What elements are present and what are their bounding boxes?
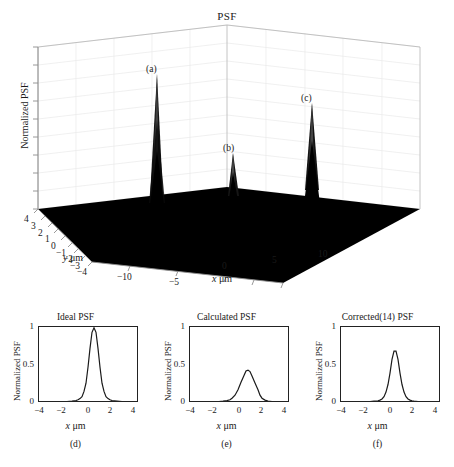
x-tick-label: 0 [222,261,227,271]
subplot-x-label-unit: μm [372,420,388,431]
subplot-x-tick: 0 [79,405,97,415]
psf-peak-c [303,103,321,212]
subplot-ideal-psf: Ideal PSF Normalized PSF 1 0.5 0 −4 −2 0… [0,312,151,467]
x-axis-label-unit: μm [216,273,232,284]
x-tick-label: −10 [117,272,132,282]
ideal-psf-curve [39,327,138,402]
z-axis [33,47,38,209]
y-tick-label: −4 [77,267,87,277]
subplot-y-tick: 1 [312,321,336,331]
subplot-x-tick: 4 [124,405,142,415]
psf-3d-y-axis-label: y μm [63,252,83,263]
subplot-x-tick: −2 [354,405,372,415]
psf-profile-subplots: Ideal PSF Normalized PSF 1 0.5 0 −4 −2 0… [0,312,454,467]
subplot-x-tick: 0 [230,405,248,415]
peak-label-b: (b) [223,143,234,153]
subplot-caption: (d) [0,439,151,449]
psf-3d-figure: PSF Normalized PSF [0,0,454,310]
subplot-plot-area [38,326,138,402]
subplot-y-tick: 0.5 [161,359,185,369]
y-tick-label: 4 [24,214,29,224]
subplot-x-tick: 0 [381,405,399,415]
calculated-psf-curve [190,327,289,402]
peak-label-c: (c) [301,93,312,103]
psf-peak-b [226,153,241,218]
corrected-psf-curve [341,327,440,402]
subplot-x-tick: −2 [203,405,221,415]
x-tick-label: −5 [169,277,179,287]
subplot-x-label-unit: μm [221,420,237,431]
subplot-x-tick: −2 [52,405,70,415]
subplot-x-axis-label: x μm [302,420,453,431]
x-tick-label: 10 [318,249,328,259]
y-axis-label-unit: μm [67,252,83,263]
subplot-x-tick: 2 [252,405,270,415]
subplot-x-tick: −4 [30,405,48,415]
subplot-caption: (e) [151,439,302,449]
subplot-x-tick: 2 [403,405,421,415]
subplot-x-label-unit: μm [70,420,86,431]
subplot-x-tick: 2 [101,405,119,415]
subplot-x-axis-label: x μm [151,420,302,431]
y-tick-label: 1 [45,234,50,244]
axis-frame [38,25,420,209]
subplot-calculated-psf: Calculated PSF Normalized PSF 1 0.5 0 −4… [151,312,302,467]
grid-wall-left [38,25,227,209]
subplot-x-tick: 4 [275,405,293,415]
grid-wall-right [227,25,420,209]
subplot-y-tick: 0.5 [10,359,34,369]
psf-3d-x-axis-label: x μm [212,273,232,284]
subplot-y-tick: 1 [10,321,34,331]
subplot-plot-area [340,326,440,402]
subplot-x-tick: 4 [426,405,444,415]
subplot-caption: (f) [302,439,453,449]
subplot-x-tick: −4 [332,405,350,415]
peak-label-a: (a) [146,64,157,74]
psf-peak-a [147,74,167,228]
subplot-x-tick: −4 [181,405,199,415]
subplot-plot-area [189,326,289,402]
subplot-x-axis-label: x μm [0,420,151,431]
y-tick-label: 3 [31,221,36,231]
y-tick-label: 2 [38,228,43,238]
subplot-y-tick: 1 [161,321,185,331]
subplot-corrected-psf: Corrected(14) PSF Normalized PSF 1 0.5 0… [302,312,453,467]
x-tick-label: 5 [272,255,277,265]
subplot-y-tick: 0.5 [312,359,336,369]
